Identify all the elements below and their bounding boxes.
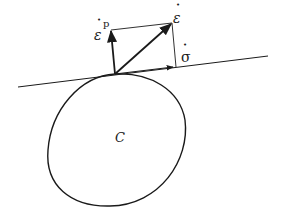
plastic-strain-rate-superscript: p <box>103 19 109 29</box>
plastic-strain-rate-vector <box>111 31 115 74</box>
stress-rate-vector <box>115 67 173 74</box>
plastic-strain-rate-label: ε <box>94 28 102 42</box>
construction-line-right <box>172 23 176 67</box>
strain-rate-vector <box>115 24 171 74</box>
region-label-c: C <box>115 131 125 144</box>
strain-rate-label: ε <box>173 11 181 25</box>
construction-line-top <box>111 23 172 30</box>
stress-rate-dot: • <box>183 41 187 49</box>
stress-rate-label: σ <box>181 50 191 64</box>
plastic-strain-rate-dot: • <box>97 16 101 24</box>
tangent-line <box>18 56 268 87</box>
strain-rate-dot: • <box>176 1 180 9</box>
normality-diagram <box>0 0 282 219</box>
